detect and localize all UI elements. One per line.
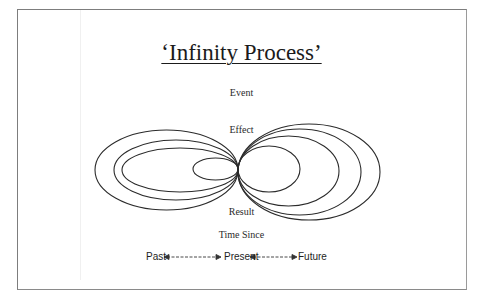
arrow-head-right-present — [216, 255, 221, 260]
left-loop-third — [122, 148, 238, 192]
arrow-head-right-future — [292, 255, 297, 260]
timeline-present: Present — [224, 251, 258, 262]
timeline-future: Future — [298, 251, 327, 262]
timeline-past: Past — [146, 251, 166, 262]
right-loop-inner — [238, 146, 300, 192]
left-loop-outer — [95, 130, 238, 210]
left-loop-second — [114, 140, 238, 200]
left-loop-small — [193, 158, 238, 180]
right-loop-second — [238, 136, 339, 206]
